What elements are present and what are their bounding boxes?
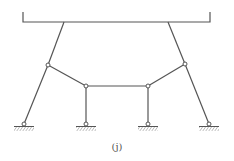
link-right (148, 64, 185, 86)
right-leg-upper (168, 22, 185, 64)
left-leg-lower (24, 65, 48, 124)
left-leg-upper (48, 22, 64, 65)
link-left (48, 65, 86, 86)
frame-diagram (0, 0, 234, 161)
figure-label: (j) (0, 141, 234, 152)
right-leg-lower (185, 64, 209, 124)
ground-supports (14, 127, 219, 132)
pin-support-icon (22, 122, 26, 126)
hinge-icon (46, 63, 50, 67)
top-beam (23, 12, 210, 22)
pin-support-icon (146, 122, 150, 126)
hinge-icon (183, 62, 187, 66)
hinge-icon (146, 84, 150, 88)
pin-support-icon (207, 122, 211, 126)
hinge-icon (84, 84, 88, 88)
pin-support-icon (84, 122, 88, 126)
